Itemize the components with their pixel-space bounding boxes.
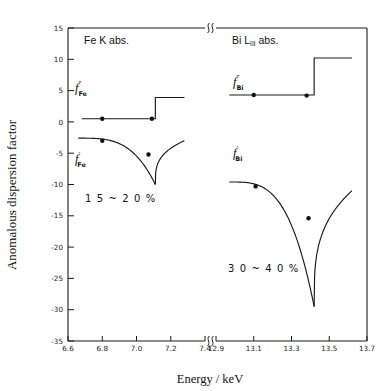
data-point-marker <box>252 93 256 97</box>
y-tick-label: 5 <box>58 86 63 95</box>
real-part-curve-right <box>155 141 184 185</box>
y-tick-label: -10 <box>51 180 63 189</box>
x-axis-ticks: 6.66.87.07.27.412.913.113.313.513.7 <box>62 336 375 353</box>
curve-label-f1-bi: f′Bi <box>233 146 242 163</box>
prime-mark: ″ <box>78 81 81 90</box>
y-axis-title: Anomalous dispersion factor <box>4 119 19 270</box>
y-tick-label: -35 <box>51 337 63 346</box>
plot-annotations: Fe K abs.Bi LIII abs.f″Fef′Fef″Bif′Bi1 5… <box>75 34 299 274</box>
x-tick-label: 6.6 <box>62 344 74 353</box>
y-tick-label: 0 <box>58 118 63 127</box>
annotation-bi-percent: 3 0 ~ 4 0 % <box>228 263 299 274</box>
y-tick-label: -5 <box>56 149 63 158</box>
real-part-curve-left <box>78 138 155 184</box>
x-tick-label: 13.7 <box>359 344 375 353</box>
element-subscript: Bi <box>236 84 243 92</box>
curve-label-f2-fe: f″Fe <box>75 81 88 98</box>
data-point-marker <box>146 152 150 156</box>
data-point-marker <box>150 117 154 121</box>
axis-break-mark <box>208 23 214 33</box>
y-axis-title-text: Anomalous dispersion factor <box>4 119 19 270</box>
data-point-marker <box>100 117 104 121</box>
data-point-marker <box>304 93 308 97</box>
imaginary-step-curve <box>82 97 185 118</box>
real-part-curve-left <box>229 182 314 307</box>
x-axis-title: Energy / keV <box>177 372 243 386</box>
x-tick-label: 13.3 <box>283 344 299 353</box>
y-tick-label: 15 <box>54 24 63 33</box>
y-tick-label: -25 <box>51 274 63 283</box>
data-point-marker <box>100 138 104 142</box>
prime-mark: ′ <box>78 152 80 161</box>
data-point-marker <box>253 184 257 188</box>
annotation-fe-percent: 1 5 ~ 2 0 % <box>85 193 156 204</box>
data-point-marker <box>306 216 310 220</box>
curve-label-f2-bi: f″Bi <box>233 75 244 92</box>
plot-frame <box>68 23 367 346</box>
anomalous-dispersion-plot: Anomalous dispersion factor Energy / keV… <box>0 0 385 391</box>
x-tick-label: 13.1 <box>246 344 262 353</box>
prime-mark: ″ <box>236 75 239 84</box>
x-tick-label: 6.8 <box>97 344 109 353</box>
imaginary-step-curve <box>229 58 352 95</box>
curve-label-f1-fe: f′Fe <box>75 152 86 169</box>
x-tick-label: 13.5 <box>321 344 337 353</box>
element-subscript: Fe <box>77 161 86 169</box>
prime-mark: ′ <box>236 146 238 155</box>
element-subscript: Bi <box>235 155 242 163</box>
y-axis-ticks: 151050-5-10-15-20-25-30-35 <box>51 24 74 346</box>
panel-title-bi: Bi LIII abs. <box>232 34 278 47</box>
y-tick-label: -15 <box>51 211 63 220</box>
y-tick-label: 10 <box>54 55 64 64</box>
panel-title-fe: Fe K abs. <box>84 34 129 46</box>
x-tick-label: 7.0 <box>131 344 143 353</box>
y-tick-label: -20 <box>51 243 63 252</box>
y-tick-label: -30 <box>51 305 63 314</box>
chart-figure: Anomalous dispersion factor Energy / keV… <box>0 0 385 391</box>
x-tick-label: 12.9 <box>208 344 224 353</box>
x-axis-title-text: Energy / keV <box>177 372 243 386</box>
data-curves <box>78 58 352 307</box>
panel-title-bi-tail: abs. <box>256 34 279 46</box>
x-tick-label: 7.2 <box>165 344 176 353</box>
real-part-curve-right <box>314 191 352 307</box>
element-subscript: Fe <box>78 90 87 98</box>
